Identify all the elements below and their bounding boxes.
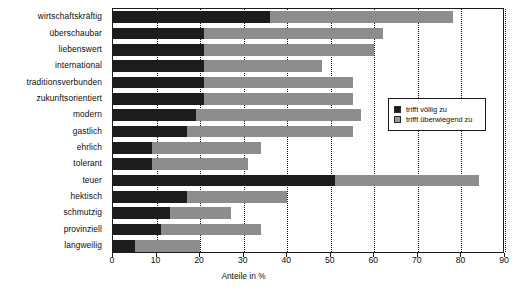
bar-segment-voellig xyxy=(113,126,187,137)
bar-segment-voellig xyxy=(113,77,204,88)
bar-segment-voellig xyxy=(113,224,161,235)
bar-row xyxy=(113,240,503,251)
bar-segment-ueberwiegend xyxy=(204,44,374,55)
x-axis-tick-label: 90 xyxy=(499,255,509,265)
bar-rows xyxy=(113,9,503,252)
y-axis-label: überschaubar xyxy=(50,28,102,38)
bar-row xyxy=(113,77,503,88)
legend-item: trifft völlig zu xyxy=(394,105,480,114)
bar-segment-voellig xyxy=(113,240,135,251)
x-axis-title: Anteile in % xyxy=(0,271,531,281)
y-axis-label: hektisch xyxy=(70,191,102,201)
y-axis-label: gastlich xyxy=(73,126,102,136)
y-axis-label: zukunftsorientiert xyxy=(36,93,102,103)
bar-segment-ueberwiegend xyxy=(135,240,200,251)
x-axis-tick-label: 80 xyxy=(456,255,466,265)
stacked-bar-chart: wirtschaftskräftigüberschaubarliebenswer… xyxy=(0,0,531,294)
legend: trifft völlig zutrifft überwiegend zu xyxy=(388,98,486,131)
bar-segment-ueberwiegend xyxy=(187,191,287,202)
y-axis-label: langweilig xyxy=(64,240,102,250)
x-axis-tick-labels: 0102030405060708090 xyxy=(0,255,531,269)
y-axis-label: provinziell xyxy=(64,224,102,234)
bar-segment-voellig xyxy=(113,93,204,104)
legend-item: trifft überwiegend zu xyxy=(394,115,480,124)
bar-segment-voellig xyxy=(113,109,196,120)
y-axis-label: tolerant xyxy=(73,158,102,168)
y-axis-label: traditionsverbunden xyxy=(27,77,102,87)
legend-label: trifft völlig zu xyxy=(406,105,447,114)
bar-row xyxy=(113,142,503,153)
bar-segment-ueberwiegend xyxy=(204,77,352,88)
bar-row xyxy=(113,44,503,55)
bar-segment-ueberwiegend xyxy=(152,158,248,169)
plot-area xyxy=(112,8,504,253)
x-axis-tick-label: 30 xyxy=(238,255,248,265)
bar-segment-ueberwiegend xyxy=(152,142,261,153)
bar-segment-ueberwiegend xyxy=(187,126,353,137)
bar-row xyxy=(113,224,503,235)
bar-row xyxy=(113,191,503,202)
legend-swatch-dark xyxy=(394,106,401,113)
legend-swatch-light xyxy=(394,116,401,123)
y-axis-label: wirtschaftskräftig xyxy=(38,11,102,21)
x-axis-tick-label: 60 xyxy=(369,255,379,265)
y-axis-label: international xyxy=(55,60,102,70)
bar-segment-ueberwiegend xyxy=(170,207,231,218)
bar-segment-voellig xyxy=(113,142,152,153)
x-axis-tick-label: 70 xyxy=(412,255,422,265)
x-axis-tick-label: 0 xyxy=(110,255,115,265)
x-axis-tick-label: 40 xyxy=(281,255,291,265)
x-axis-tick-label: 10 xyxy=(151,255,161,265)
x-axis-tick-label: 50 xyxy=(325,255,335,265)
y-axis-label: liebenswert xyxy=(59,44,102,54)
bar-segment-voellig xyxy=(113,44,204,55)
bar-row xyxy=(113,207,503,218)
bar-segment-voellig xyxy=(113,207,170,218)
legend-label: trifft überwiegend zu xyxy=(406,115,472,124)
y-axis-label: schmutzig xyxy=(63,207,102,217)
bar-row xyxy=(113,158,503,169)
x-axis-title-text: Anteile in % xyxy=(221,271,265,281)
bar-segment-ueberwiegend xyxy=(204,93,352,104)
bar-segment-ueberwiegend xyxy=(204,60,322,71)
bar-segment-voellig xyxy=(113,60,204,71)
x-axis-tick-label: 20 xyxy=(194,255,204,265)
gridline-90 xyxy=(505,9,506,252)
bar-segment-ueberwiegend xyxy=(161,224,261,235)
y-axis-label: ehrlich xyxy=(77,142,102,152)
bar-row xyxy=(113,28,503,39)
y-axis-label: modern xyxy=(73,109,102,119)
bar-segment-voellig xyxy=(113,158,152,169)
bar-segment-voellig xyxy=(113,175,335,186)
bar-segment-voellig xyxy=(113,191,187,202)
y-axis-label: teuer xyxy=(82,175,102,185)
bar-segment-ueberwiegend xyxy=(196,109,362,120)
y-axis-labels: wirtschaftskräftigüberschaubarliebenswer… xyxy=(0,8,108,253)
bar-row xyxy=(113,11,503,22)
bar-segment-ueberwiegend xyxy=(270,11,453,22)
bar-segment-voellig xyxy=(113,28,204,39)
bar-segment-ueberwiegend xyxy=(204,28,383,39)
bar-segment-voellig xyxy=(113,11,270,22)
bar-segment-ueberwiegend xyxy=(335,175,479,186)
bar-row xyxy=(113,175,503,186)
bar-row xyxy=(113,60,503,71)
